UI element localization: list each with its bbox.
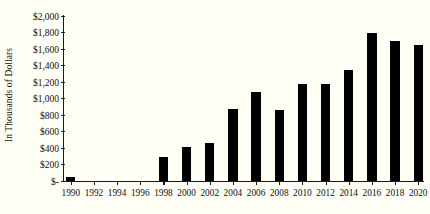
y-axis-tick: $600 xyxy=(64,131,65,132)
x-axis-tick-label: 2014 xyxy=(339,188,358,198)
y-axis-tick-label: $1,600 xyxy=(33,44,59,54)
y-axis-tick: $1,800 xyxy=(64,32,65,33)
bar xyxy=(367,33,376,181)
y-axis-tick-label: $400 xyxy=(40,143,59,153)
bar xyxy=(159,157,168,181)
x-axis-tick-label: 2002 xyxy=(200,188,219,198)
x-axis-tick-label: 1994 xyxy=(108,188,127,198)
x-axis-tick-label: 2012 xyxy=(316,188,335,198)
bar xyxy=(251,92,260,181)
y-axis-tick: $400 xyxy=(64,148,65,149)
x-axis-tick-mark xyxy=(326,181,327,185)
y-axis-tick-label: $1,400 xyxy=(33,61,59,71)
y-axis-tick-mark xyxy=(61,32,65,33)
x-axis-tick-label: 2010 xyxy=(293,188,312,198)
bar xyxy=(228,109,237,181)
y-axis-tick-label: $1,000 xyxy=(33,94,59,104)
x-axis-tick-mark xyxy=(233,181,234,185)
y-axis-tick-label: $1,200 xyxy=(33,77,59,87)
y-axis-tick-mark xyxy=(61,65,65,66)
x-axis-tick-mark xyxy=(163,181,164,185)
x-axis-tick-label: 1992 xyxy=(85,188,104,198)
x-axis-tick-label: 2016 xyxy=(363,188,382,198)
y-axis-tick: $1,400 xyxy=(64,65,65,66)
x-axis-tick-mark xyxy=(210,181,211,185)
x-axis-tick-mark xyxy=(140,181,141,185)
bar xyxy=(321,84,330,181)
x-axis-tick-mark xyxy=(256,181,257,185)
x-axis-tick-mark xyxy=(418,181,419,185)
x-axis-tick-mark xyxy=(94,181,95,185)
x-axis-tick-label: 2006 xyxy=(247,188,266,198)
x-axis-tick-label: 2018 xyxy=(386,188,405,198)
y-axis-tick-label: $600 xyxy=(40,127,59,137)
x-axis-tick-label: 2000 xyxy=(177,188,196,198)
y-axis-tick-mark xyxy=(61,147,65,148)
x-axis-tick-label: 1996 xyxy=(131,188,150,198)
y-axis-tick-label: $1,800 xyxy=(33,28,59,38)
y-axis-tick-mark xyxy=(61,48,65,49)
y-axis-title: In Thousands of Dollars xyxy=(0,0,18,190)
x-axis-tick-mark xyxy=(349,181,350,185)
y-axis-tick: $200 xyxy=(64,164,65,165)
y-axis-tick: $- xyxy=(64,181,65,182)
y-axis-tick: $1,200 xyxy=(64,82,65,83)
bar xyxy=(205,143,214,181)
y-axis-tick-label: $800 xyxy=(40,110,59,120)
bar xyxy=(275,110,284,181)
plot-area: $2,000$1,800$1,600$1,400$1,200$1,000$800… xyxy=(65,16,424,181)
x-axis-tick-label: 1990 xyxy=(61,188,80,198)
x-axis-tick-mark xyxy=(117,181,118,185)
y-axis-title-label: In Thousands of Dollars xyxy=(4,48,14,142)
x-axis-tick-label: 1998 xyxy=(154,188,173,198)
y-axis-tick: $1,600 xyxy=(64,49,65,50)
bar xyxy=(414,45,423,181)
y-axis-tick: $2,000 xyxy=(64,16,65,17)
y-axis-tick-mark xyxy=(61,180,65,181)
y-axis-tick-mark xyxy=(61,15,65,16)
x-axis-tick-mark xyxy=(395,181,396,185)
x-axis-tick-mark xyxy=(187,181,188,185)
x-axis-tick-label: 2004 xyxy=(224,188,243,198)
y-axis-tick-mark xyxy=(61,114,65,115)
x-axis-tick-mark xyxy=(372,181,373,185)
x-axis-tick-label: 2020 xyxy=(409,188,428,198)
x-axis-tick-mark xyxy=(302,181,303,185)
y-axis-tick-label: $- xyxy=(51,176,59,186)
y-axis-tick: $1,000 xyxy=(64,98,65,99)
y-axis-tick-label: $200 xyxy=(40,160,59,170)
bar xyxy=(298,84,307,181)
bar xyxy=(182,147,191,181)
bar xyxy=(390,41,399,181)
bar-chart: In Thousands of Dollars $2,000$1,800$1,6… xyxy=(0,0,430,214)
y-axis-tick-mark xyxy=(61,81,65,82)
y-axis-tick-mark xyxy=(61,131,65,132)
y-axis-tick-mark xyxy=(61,98,65,99)
x-axis-tick-label: 2008 xyxy=(270,188,289,198)
x-axis-tick-mark xyxy=(279,181,280,185)
bar xyxy=(344,70,353,181)
y-axis-tick-label: $2,000 xyxy=(33,11,59,21)
y-axis-tick: $800 xyxy=(64,115,65,116)
y-axis-tick-mark xyxy=(61,164,65,165)
x-axis-tick-mark xyxy=(71,181,72,185)
